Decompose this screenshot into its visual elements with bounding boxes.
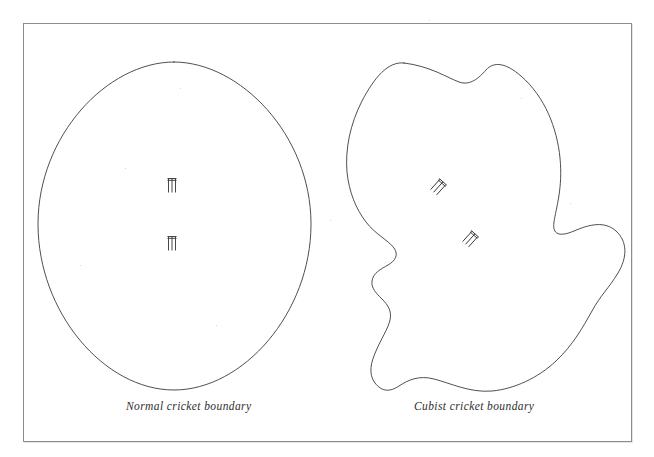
- paper-speck: [429, 20, 430, 21]
- figure-frame: [23, 23, 632, 442]
- caption-normal-boundary: Normal cricket boundary: [126, 400, 251, 412]
- paper-speck: [180, 88, 181, 89]
- paper-speck: [80, 265, 81, 266]
- paper-speck: [521, 98, 522, 99]
- paper-speck: [570, 203, 571, 204]
- caption-cubist-boundary: Cubist cricket boundary: [414, 400, 534, 412]
- paper-speck: [125, 168, 126, 169]
- figure-root: Normal cricket boundary Cubist cricket b…: [0, 0, 654, 457]
- paper-speck: [216, 325, 217, 326]
- paper-speck: [330, 220, 331, 221]
- page-caption-text: [2, 448, 652, 457]
